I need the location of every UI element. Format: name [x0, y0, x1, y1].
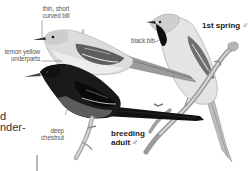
breeding-adult-label: breeding adult♂ [111, 129, 145, 147]
bill-annotation-line2: curved bill [36, 12, 76, 19]
underparts-annotation-line1: lemon yellow [0, 48, 40, 55]
male-symbol: ♂ [242, 21, 248, 30]
first-spring-male-illustration [146, 14, 232, 162]
chestnut-annotation-line1: deep [30, 127, 64, 134]
chestnut-annotation: deep chestnut [30, 127, 64, 141]
black-bib-annotation: black bib [131, 37, 155, 44]
first-spring-text: 1st spring [202, 21, 240, 30]
body-text-fragment-2: nder- [0, 121, 26, 134]
bill-annotation: thin, short curved bill [36, 5, 76, 19]
underparts-annotation-line2: underparts [0, 55, 40, 62]
breeding-adult-label-line1: breeding [111, 129, 145, 138]
field-guide-page: thin, short curved bill ♀ lemon yellow u… [0, 0, 250, 171]
adult-text: adult [111, 138, 130, 147]
male-symbol: ♂ [132, 138, 138, 147]
chestnut-annotation-line2: chestnut [30, 134, 64, 141]
underparts-annotation: lemon yellow underparts [0, 48, 40, 62]
bill-annotation-line1: thin, short [36, 5, 76, 12]
breeding-adult-label-line2: adult♂ [111, 138, 145, 147]
female-symbol: ♀ [80, 27, 86, 36]
first-spring-label: 1st spring♂ [202, 21, 248, 30]
